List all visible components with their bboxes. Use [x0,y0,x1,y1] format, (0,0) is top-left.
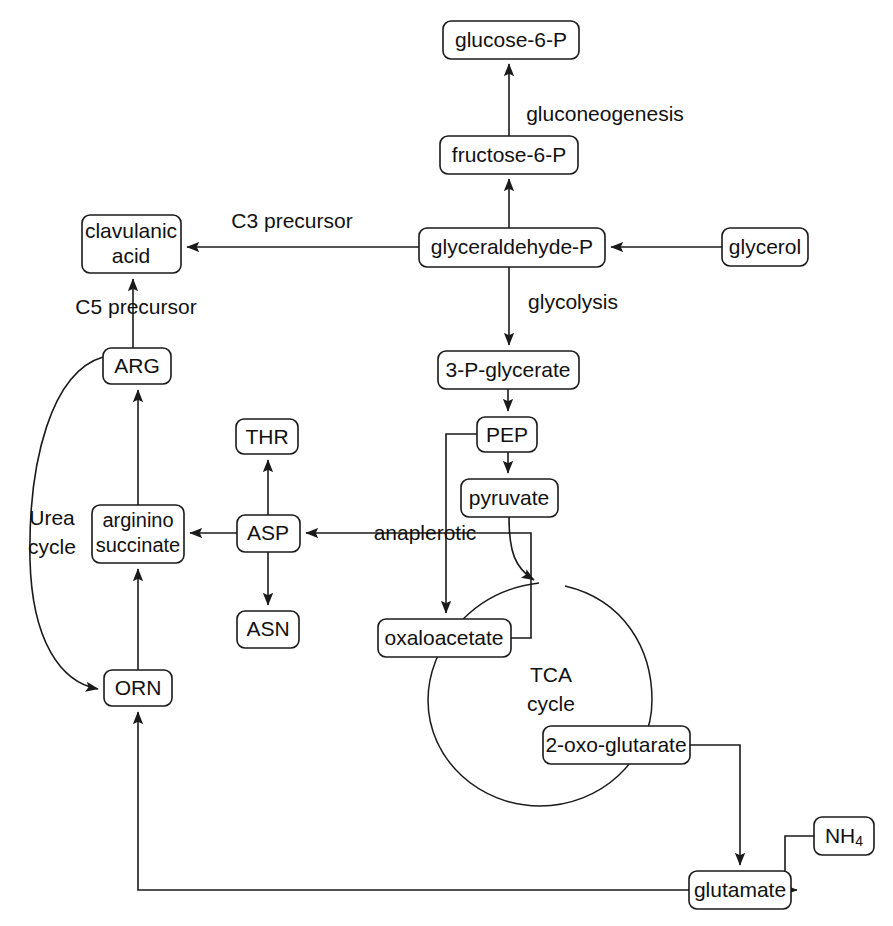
node-label-arginino-succinate-line2: succinate [96,534,181,556]
node-asp[interactable]: ASP [237,515,300,552]
node-fructose-6-p[interactable]: fructose-6-P [440,136,578,174]
node-3-p-glycerate[interactable]: 3-P-glycerate [438,351,579,389]
node-oxaloacetate[interactable]: oxaloacetate [378,619,511,657]
node-label-arginino-succinate-line1: arginino [102,509,173,531]
label-c3-precursor: C3 precursor [231,209,352,232]
node-asn[interactable]: ASN [237,611,299,648]
label-urea-cycle-line1: Urea [29,506,75,529]
node-label-3-p-glycerate: 3-P-glycerate [446,358,571,381]
node-label-nh4-base: NH [825,824,855,847]
node-glucose-6-p[interactable]: glucose-6-P [443,21,579,59]
label-gluconeogenesis: gluconeogenesis [526,102,684,125]
node-label-asn: ASN [246,617,289,640]
node-label-clavulanic-acid-line1: clavulanic [85,219,177,242]
node-label-asp: ASP [247,521,289,544]
label-tca-cycle-line2: cycle [527,692,575,715]
pathway-diagram: glucose-6-P fructose-6-P glyceraldehyde-… [0,0,893,926]
label-tca-cycle-line1: TCA [530,663,572,686]
node-label-arg: ARG [114,354,160,377]
node-clavulanic-acid[interactable]: clavulanic acid [82,215,181,273]
node-thr[interactable]: THR [236,419,298,454]
label-urea-cycle-line2: cycle [28,535,76,558]
node-label-glutamate: glutamate [694,878,786,901]
node-orn[interactable]: ORN [104,670,172,706]
node-glycerol[interactable]: glycerol [722,228,808,266]
node-label-glycerol: glycerol [729,235,801,258]
node-2-oxo-glutarate[interactable]: 2-oxo-glutarate [543,726,690,764]
node-glyceraldehyde-p[interactable]: glyceraldehyde-P [419,228,605,267]
node-label-glucose-6-p: glucose-6-P [455,28,567,51]
node-label-glyceraldehyde-p: glyceraldehyde-P [431,235,593,258]
node-pyruvate[interactable]: pyruvate [461,479,558,517]
node-arg[interactable]: ARG [103,348,171,384]
node-pep[interactable]: PEP [477,417,537,452]
label-c5-precursor: C5 precursor [75,295,196,318]
node-label-2-oxo-glutarate: 2-oxo-glutarate [545,733,686,756]
node-label-nh4-subscript: 4 [855,833,863,849]
node-nh4[interactable]: NH4 [814,817,874,855]
node-label-fructose-6-p: fructose-6-P [452,143,566,166]
label-anaplerotic: anaplerotic [374,521,477,544]
node-arginino-succinate[interactable]: arginino succinate [92,505,184,563]
node-label-orn: ORN [115,676,162,699]
node-label-clavulanic-acid-line2: acid [112,244,151,267]
node-label-pep: PEP [486,423,528,446]
node-label-pyruvate: pyruvate [469,486,550,509]
node-label-oxaloacetate: oxaloacetate [384,626,503,649]
node-label-thr: THR [245,425,288,448]
label-glycolysis: glycolysis [528,290,618,313]
node-glutamate[interactable]: glutamate [689,871,791,909]
